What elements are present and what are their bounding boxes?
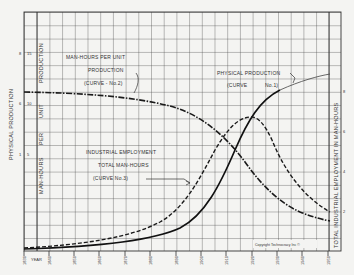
- chart-figure: PHYSICAL PRODUCTION PRODUCTION UNIT PER …: [0, 0, 354, 275]
- left-tick-6: 6: [19, 101, 22, 106]
- annotation-curve-3-line2: TOTAL MAN-HOURS: [98, 162, 149, 168]
- x-axis-label-year: YEAR: [31, 257, 42, 262]
- left-tick-15: 15: [27, 51, 32, 56]
- y-axis-label-physical-production: PHYSICAL PRODUCTION: [8, 89, 14, 160]
- x-tick-1950: 1950: [326, 255, 331, 265]
- x-tick-1840: 1840: [47, 255, 52, 265]
- x-tick-1880: 1880: [148, 255, 153, 265]
- y-axis-label-inner-unit: UNIT: [38, 104, 44, 118]
- y-axis-label-inner-production: PRODUCTION: [38, 43, 44, 83]
- annotation-curve-2-line3: (CURVE - No.2): [84, 80, 123, 86]
- y-axis-label-inner-per: PER: [38, 133, 44, 145]
- x-tick-1920: 1920: [250, 255, 255, 265]
- x-tick-1930: 1930: [275, 255, 280, 265]
- left-tick-10: 10: [27, 101, 32, 106]
- annotation-curve-1-line1: PHYSICAL PRODUCTION: [217, 70, 281, 76]
- x-tick-1850: 1850: [72, 255, 77, 265]
- right-tick-2: 2: [343, 209, 346, 214]
- x-tick-1910: 1910: [224, 255, 229, 265]
- annotation-curve-1-line3: No.1): [265, 82, 278, 88]
- right-tick-6: 6: [343, 129, 346, 134]
- right-tick-8: 8: [343, 89, 346, 94]
- annotation-curve-1-line2: (CURVE: [227, 82, 248, 88]
- plot-grid: [24, 12, 341, 251]
- annotation-curve-3-line1: INDUSTRIAL EMPLOYMENT: [86, 149, 156, 155]
- x-axis: [24, 251, 328, 256]
- y-axis-label-total-employment: TOTAL INDUSTRIAL EMPLOYMENT IN MAN-HOURS: [333, 103, 339, 248]
- x-tick-1890: 1890: [174, 255, 179, 265]
- left-tick-8: 8: [19, 51, 22, 56]
- right-tick-4: 4: [343, 169, 346, 174]
- copyright-notice: Copyright Technocracy Inc ©: [255, 243, 300, 247]
- x-tick-1900: 1900: [199, 255, 204, 265]
- annotation-curve-2-line1: MAN-HOURS PER UNIT: [66, 54, 125, 60]
- x-tick-1860: 1860: [97, 255, 102, 265]
- annotation-curve-3-line3: (CURVE No.3): [93, 175, 128, 181]
- left-tick-1: 1: [19, 152, 22, 157]
- x-tick-1940: 1940: [300, 255, 305, 265]
- x-tick-1870: 1870: [123, 255, 128, 265]
- annotation-curve-2-line2: PRODUCTION: [88, 67, 124, 73]
- y-axis-label-inner-man-hours: MAN-HOURS: [38, 157, 44, 194]
- x-tick-1830: 1830: [22, 255, 27, 265]
